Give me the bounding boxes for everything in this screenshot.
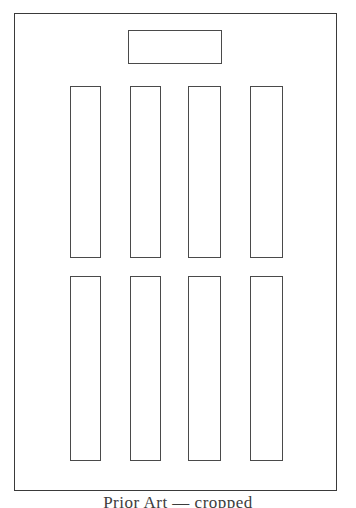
outer-frame bbox=[14, 13, 337, 491]
slot-lower-2 bbox=[130, 276, 161, 461]
slot-upper-4-label bbox=[251, 87, 282, 257]
slot-upper-3-label bbox=[189, 87, 220, 257]
figure-caption: Prior Art — cropped bbox=[0, 494, 356, 508]
slot-upper-2 bbox=[130, 86, 161, 258]
figure-caption-text: Prior Art — cropped bbox=[0, 494, 356, 508]
slot-lower-4-label bbox=[251, 277, 282, 460]
header-rectangle bbox=[128, 30, 222, 64]
slot-upper-1-label bbox=[71, 87, 100, 257]
header-rectangle-label bbox=[129, 31, 221, 63]
slot-lower-3 bbox=[188, 276, 221, 461]
slot-upper-2-label bbox=[131, 87, 160, 257]
slot-lower-3-label bbox=[189, 277, 220, 460]
slot-upper-3 bbox=[188, 86, 221, 258]
slot-upper-1 bbox=[70, 86, 101, 258]
slot-lower-1-label bbox=[71, 277, 100, 460]
slot-upper-4 bbox=[250, 86, 283, 258]
figure-sheet: Prior Art — cropped bbox=[0, 0, 356, 508]
slot-lower-2-label bbox=[131, 277, 160, 460]
slot-lower-4 bbox=[250, 276, 283, 461]
slot-lower-1 bbox=[70, 276, 101, 461]
